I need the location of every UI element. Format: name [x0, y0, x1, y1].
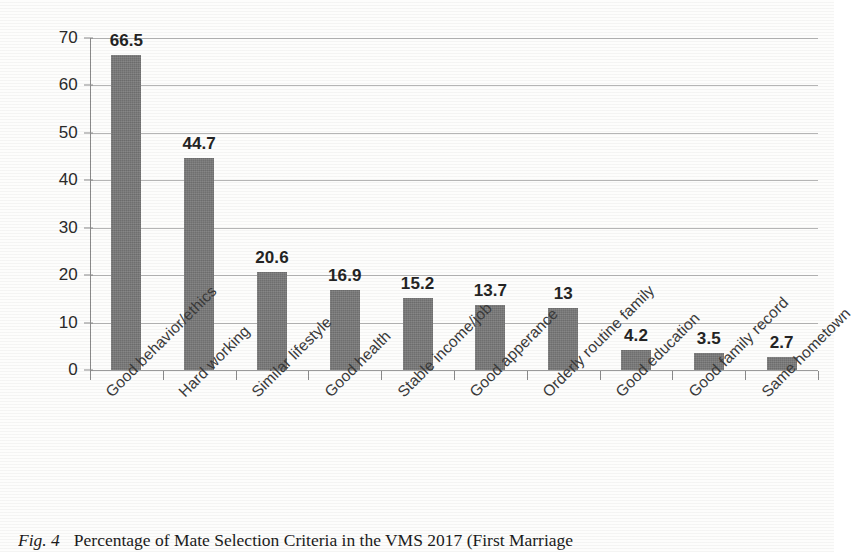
y-tick-label-30: 30 — [59, 218, 78, 238]
y-tick-label-40: 40 — [59, 170, 78, 190]
gridline-70 — [90, 38, 818, 39]
bar-value-label: 66.5 — [110, 31, 144, 51]
figure-number: Fig. 4 — [18, 530, 60, 550]
x-tick-mark — [236, 371, 237, 380]
bar-value-label: 15.2 — [401, 274, 435, 294]
x-tick-mark — [163, 371, 164, 380]
y-tick-mark-0 — [84, 370, 93, 371]
y-tick-mark-40 — [84, 180, 93, 181]
x-tick-mark — [454, 371, 455, 380]
figure-caption-text: Percentage of Mate Selection Criteria in… — [74, 530, 573, 550]
x-tick-mark — [527, 371, 528, 380]
y-tick-mark-50 — [84, 132, 93, 133]
x-tick-mark — [381, 371, 382, 380]
figure-caption: Fig. 4Percentage of Mate Selection Crite… — [18, 530, 830, 551]
bar — [184, 158, 214, 370]
y-tick-label-70: 70 — [59, 28, 78, 48]
y-axis-tick-labels: 010203040506070 — [36, 38, 78, 370]
bar-value-label: 13 — [554, 284, 573, 304]
y-tick-mark-30 — [84, 227, 93, 228]
gridline-60 — [90, 85, 818, 86]
bar-value-label: 2.7 — [770, 333, 794, 353]
plot-area — [90, 38, 818, 370]
x-tick-mark — [818, 371, 819, 380]
y-tick-mark-70 — [84, 38, 93, 39]
x-tick-mark — [90, 371, 91, 380]
x-tick-mark — [600, 371, 601, 380]
bar-value-label: 4.2 — [624, 326, 648, 346]
y-tick-mark-20 — [84, 275, 93, 276]
bar-value-label: 3.5 — [697, 329, 721, 349]
y-tick-label-10: 10 — [59, 313, 78, 333]
y-tick-label-0: 0 — [68, 360, 78, 380]
y-tick-label-20: 20 — [59, 265, 78, 285]
x-tick-mark — [745, 371, 746, 380]
x-tick-mark — [308, 371, 309, 380]
bar-value-label: 13.7 — [474, 281, 508, 301]
bar-value-label: 20.6 — [255, 248, 289, 268]
y-tick-mark-60 — [84, 85, 93, 86]
bar-value-label: 44.7 — [182, 134, 216, 154]
bar — [111, 55, 141, 370]
y-tick-label-50: 50 — [59, 123, 78, 143]
y-tick-label-60: 60 — [59, 75, 78, 95]
bar-value-label: 16.9 — [328, 266, 362, 286]
y-tick-mark-10 — [84, 322, 93, 323]
x-tick-mark — [672, 371, 673, 380]
